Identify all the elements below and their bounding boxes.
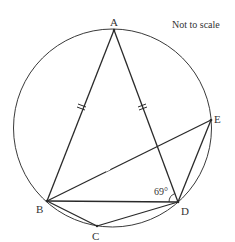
segment-BD: [47, 201, 178, 202]
point-B: [46, 200, 49, 203]
label-C: C: [92, 230, 99, 242]
circle: [14, 29, 212, 227]
segment-AB: [47, 30, 114, 201]
cyclic-quadrilateral-diagram: A B C D E 69° Not to scale: [0, 0, 235, 242]
point-A: [113, 29, 116, 32]
angle-arc-D: [169, 194, 175, 202]
label-A: A: [110, 16, 118, 28]
point-D: [177, 201, 180, 204]
angle-label: 69°: [154, 186, 168, 197]
label-B: B: [36, 203, 43, 215]
segment-AD: [114, 30, 178, 202]
segment-CD: [97, 202, 178, 226]
point-E: [210, 119, 213, 122]
segment-BC: [47, 201, 97, 226]
segment-BE: [47, 120, 211, 201]
label-D: D: [181, 205, 189, 217]
label-E: E: [214, 113, 221, 125]
not-to-scale-note: Not to scale: [172, 19, 220, 30]
point-C: [96, 225, 99, 228]
